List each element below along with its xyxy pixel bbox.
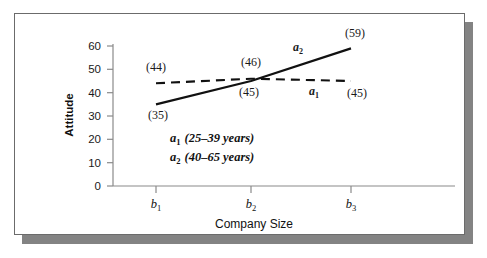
- data-label-a2-b2: (45): [239, 85, 259, 99]
- x-tick-label-b3-sub: 3: [352, 203, 356, 213]
- y-tick-label-40: 40: [88, 87, 101, 99]
- series-inline-label-a2: a2: [293, 40, 303, 56]
- data-label-a2-b1: (35): [148, 108, 168, 122]
- y-tick-label-50: 50: [88, 63, 101, 75]
- x-tick-label-b2: b2: [246, 197, 257, 213]
- legend-label-a2: (40–65 years): [185, 150, 255, 164]
- legend-key-a2-sub: 2: [176, 156, 180, 166]
- series-inline-label-a1: a1: [309, 84, 319, 100]
- data-label-a1-b2: (46): [241, 55, 261, 69]
- y-tick-label-10: 10: [88, 157, 101, 169]
- y-tick-label-20: 20: [88, 133, 101, 145]
- legend: a1(25–39 years) a2(40–65 years): [170, 131, 254, 166]
- x-tick-label-b1-sub: 1: [157, 203, 161, 213]
- y-tick-label-30: 30: [88, 110, 101, 122]
- x-tick-label-b1: b1: [151, 197, 162, 213]
- x-axis-title: Company Size: [215, 217, 293, 231]
- legend-row-1: a1(25–39 years): [170, 131, 254, 147]
- data-label-a2-b3: (59): [345, 26, 365, 40]
- figure-card: 60 50 40 30 20 10 0 Attitude b1 b2 b3 Co…: [14, 13, 465, 235]
- y-tick-label-60: 60: [88, 40, 101, 52]
- data-label-a1-b1: (44): [146, 60, 166, 74]
- series-inline-label-a1-sub: 1: [315, 91, 319, 100]
- series-inline-label-a2-sub: 2: [299, 47, 303, 56]
- legend-key-a1-sub: 1: [176, 137, 180, 147]
- data-label-a1-b3: (45): [347, 86, 367, 100]
- y-axis-title: Attitude: [63, 93, 75, 136]
- line-chart: 60 50 40 30 20 10 0 Attitude b1 b2 b3 Co…: [15, 14, 466, 236]
- figure-root: 60 50 40 30 20 10 0 Attitude b1 b2 b3 Co…: [0, 0, 487, 258]
- y-tick-label-0: 0: [95, 180, 101, 192]
- legend-label-a1: (25–39 years): [185, 131, 255, 145]
- x-tick-label-b2-sub: 2: [252, 203, 256, 213]
- plot-area: 60 50 40 30 20 10 0 Attitude b1 b2 b3 Co…: [15, 14, 466, 236]
- x-tick-label-b3: b3: [346, 197, 357, 213]
- legend-row-2: a2(40–65 years): [170, 150, 254, 166]
